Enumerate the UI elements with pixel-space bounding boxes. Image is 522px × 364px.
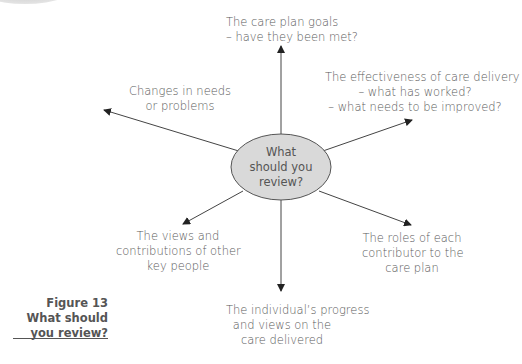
node-line: Changes in needs (125, 84, 235, 99)
node-line: – have they been met? (226, 30, 338, 45)
node-lower-left: The views and contributions of other key… (116, 229, 240, 274)
node-upper-right: The effectiveness of care delivery – wha… (325, 70, 505, 115)
figure-caption: Figure 13 What should you review? (27, 296, 108, 341)
node-line: or problems (125, 99, 235, 114)
node-line: The roles of each (362, 231, 462, 246)
node-line: key people (116, 259, 240, 274)
node-line: care delivered (226, 333, 338, 348)
arrow-lower-left (183, 191, 243, 224)
node-line: – what has worked? (325, 85, 505, 100)
node-lower-right: The roles of each contributor to the car… (362, 231, 462, 276)
arrow-upper-left (104, 110, 242, 152)
center-label-line: review? (231, 175, 331, 190)
node-line: care plan (362, 261, 462, 276)
figure-title-line: What should (27, 311, 108, 326)
caption-underline (13, 338, 108, 339)
node-line: The views and (116, 229, 240, 244)
center-label: What should you review? (231, 145, 331, 190)
arrow-upper-right (320, 120, 412, 152)
node-bottom: The individual’s progress and views on t… (226, 303, 338, 348)
node-line: contributor to the (362, 246, 462, 261)
arrow-lower-right (319, 191, 411, 225)
node-line: The care plan goals (226, 15, 338, 30)
node-top: The care plan goals – have they been met… (226, 15, 338, 45)
node-line: The individual’s progress (226, 303, 338, 318)
node-line: The effectiveness of care delivery (325, 70, 505, 85)
node-line: and views on the (226, 318, 338, 333)
figure-number: Figure 13 (27, 296, 108, 311)
center-label-line: What (231, 145, 331, 160)
node-upper-left: Changes in needs or problems (125, 84, 235, 114)
center-label-line: should you (231, 160, 331, 175)
node-line: contributions of other (116, 244, 240, 259)
node-line: – what needs to be improved? (325, 100, 505, 115)
